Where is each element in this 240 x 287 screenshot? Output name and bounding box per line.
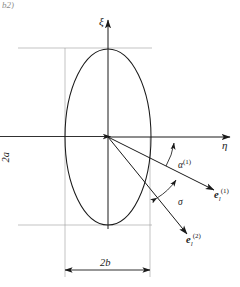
alpha-superscript: (1) — [183, 158, 191, 166]
e1-superscript: (1) — [221, 187, 229, 195]
e-l-2-vector-line — [108, 137, 187, 234]
extension-lines — [18, 48, 152, 277]
minor-axis-dimension-label: 2b — [100, 258, 111, 269]
sigma-angle-label: σ — [178, 198, 183, 208]
figure-canvas: b2) — [0, 0, 240, 287]
e-l-1-vector-label: el(1) — [214, 188, 229, 203]
major-axis-dimension-label: 2a — [1, 152, 12, 163]
e-l-2-vector-label: el(2) — [186, 233, 201, 248]
xi-axis-label: ξ — [99, 16, 104, 27]
e-l-1-vector-line — [108, 137, 214, 190]
diagram-svg — [0, 0, 240, 287]
e1-subscript: l — [219, 195, 221, 203]
alpha-1-angle-arc — [166, 143, 174, 166]
e2-superscript: (2) — [193, 232, 201, 240]
sigma-angle-arc — [157, 180, 176, 198]
eta-axis-label: η — [222, 140, 227, 151]
alpha-1-angle-label: α(1) — [178, 159, 191, 171]
e2-subscript: l — [191, 240, 193, 248]
